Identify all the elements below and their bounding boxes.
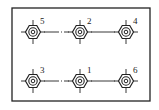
nut-4: 4 — [114, 16, 138, 44]
nut-5: 5 — [21, 16, 45, 44]
bolt-pattern-diagram: 524316 — [0, 0, 159, 110]
nut-3: 3 — [21, 65, 45, 93]
nut-2: 2 — [68, 16, 92, 44]
sequence-number: 4 — [133, 16, 138, 26]
sequence-number: 3 — [40, 65, 45, 75]
nut-6: 6 — [114, 65, 138, 93]
nut-group: 524316 — [21, 16, 138, 93]
nut-1: 1 — [68, 65, 92, 93]
sequence-number: 5 — [40, 16, 45, 26]
sequence-number: 2 — [87, 16, 92, 26]
sequence-number: 1 — [87, 65, 92, 75]
sequence-number: 6 — [133, 65, 138, 75]
connector-lines — [44, 32, 115, 81]
